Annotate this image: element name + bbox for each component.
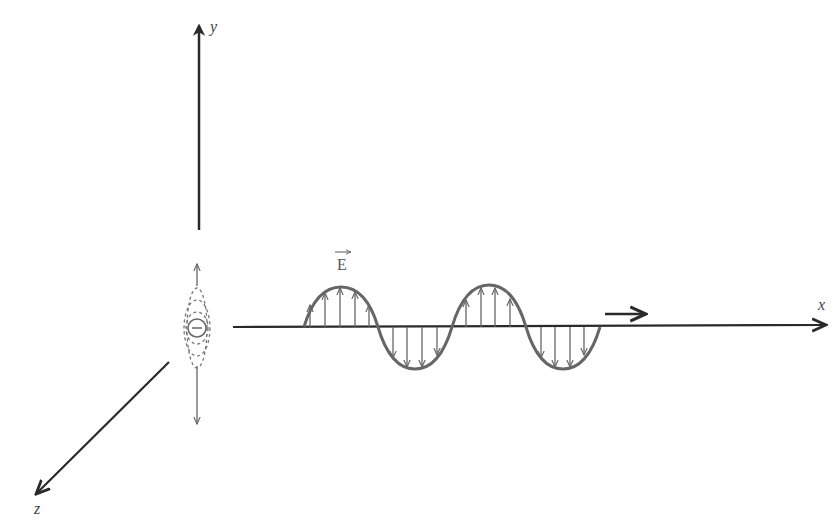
y-axis-label: y [210,18,217,36]
oscillating-charge [184,264,210,424]
x-axis-label: x [818,296,825,314]
z-axis-label: z [34,500,40,518]
field-label-e: E [337,256,347,274]
z-axis [36,362,169,494]
diagram-canvas [0,0,840,529]
x-axis [233,325,826,327]
